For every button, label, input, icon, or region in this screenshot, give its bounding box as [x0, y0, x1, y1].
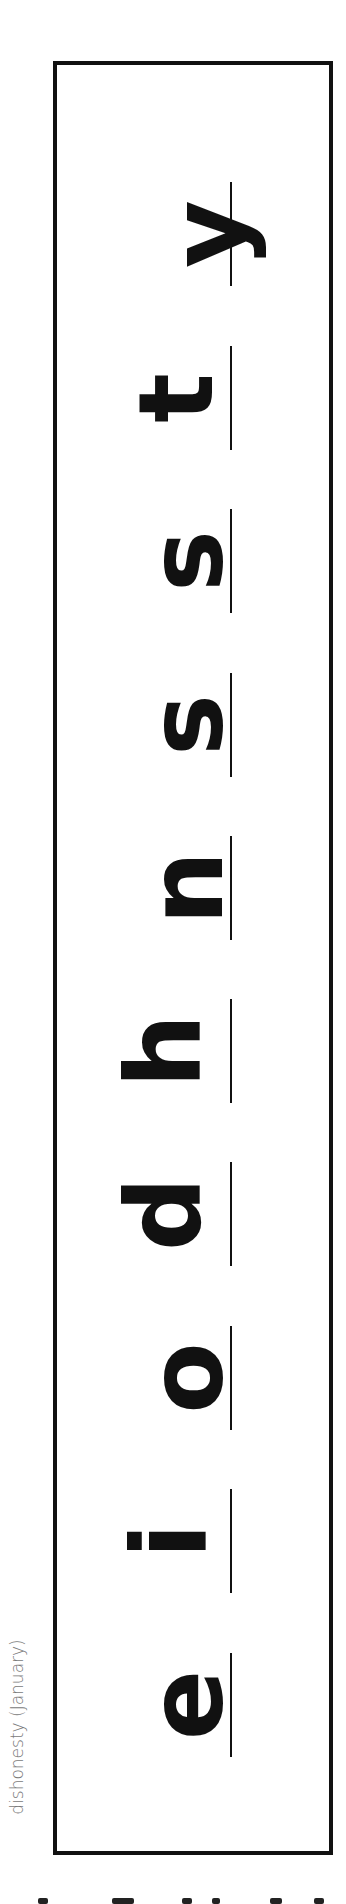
- cropped-text-row: [0, 1896, 346, 1904]
- letter-slot-9: t: [0, 346, 346, 450]
- letter-glyph: h: [112, 1014, 216, 1088]
- letter-glyph: d: [112, 1177, 216, 1251]
- letter-glyph: e: [134, 1670, 238, 1741]
- letter-slot-7: s: [0, 673, 346, 777]
- letter-glyph: n: [134, 851, 238, 925]
- letter-glyph: s: [134, 694, 238, 756]
- letter-slot-4: d: [0, 1162, 346, 1266]
- baseline-line: [230, 999, 232, 1103]
- baseline-line: [230, 1162, 232, 1266]
- letter-slot-5: h: [0, 999, 346, 1103]
- letter-slot-1: e: [0, 1653, 346, 1757]
- letter-glyph: t: [124, 373, 228, 423]
- letter-glyph: y: [156, 200, 260, 268]
- letter-slot-8: s: [0, 509, 346, 613]
- letter-slot-2: i: [0, 1489, 346, 1593]
- letter-glyph: i: [118, 1523, 222, 1559]
- letter-glyph: s: [134, 530, 238, 592]
- letter-glyph: o: [134, 1342, 238, 1413]
- letter-slot-6: n: [0, 836, 346, 940]
- letter-slot-3: o: [0, 1326, 346, 1430]
- letter-slot-10: y: [0, 182, 346, 286]
